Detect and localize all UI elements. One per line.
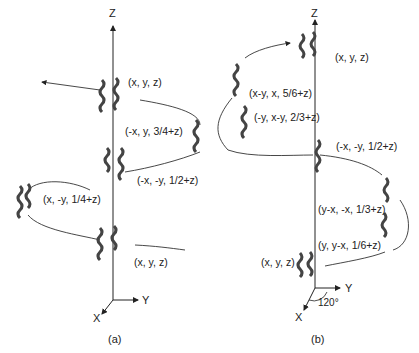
- panel-b-y-axis-label: Y: [345, 283, 352, 294]
- panel-b-label-2: (-y, x-y, 2/3+z): [254, 112, 320, 123]
- panel-b-caption: (b): [311, 334, 324, 345]
- panel-b-label-1: (x-y, x, 5/6+z): [249, 88, 312, 99]
- panel-a-label-3: (x, -y, 1/4+z): [43, 194, 101, 205]
- panel-a-x-axis-label: X: [93, 313, 100, 324]
- panel-a-label-0: (x, y, z): [128, 77, 162, 88]
- panel-a-label-2: (-x, -y, 1/2+z): [137, 175, 198, 186]
- panel-b-label-0: (x, y, z): [335, 52, 369, 63]
- panel-b-z-axis-label: Z: [311, 8, 318, 19]
- panel-a-label-1: (-x, y, 3/4+z): [125, 126, 183, 137]
- panel-b-label-6: (x, y, z): [261, 257, 295, 268]
- panel-a-proteins: [18, 78, 198, 260]
- panel-b-label-3: (-x, -y, 1/2+z): [336, 141, 397, 152]
- panel-a-label-4: (x, y, z): [134, 257, 168, 268]
- panel-b-x-axis-label: X: [295, 312, 302, 323]
- panel-b-angle-label: 120°: [318, 298, 339, 308]
- panel-a-caption: (a): [108, 334, 121, 345]
- panel-b-helix-path: [218, 43, 409, 266]
- panel-a-z-axis-label: Z: [109, 8, 116, 19]
- panel-b-label-4: (y-x, -x, 1/3+z): [318, 204, 385, 215]
- panel-b-label-5: (y, y-x, 1/6+z): [318, 240, 381, 251]
- panel-a-y-axis-label: Y: [142, 295, 149, 306]
